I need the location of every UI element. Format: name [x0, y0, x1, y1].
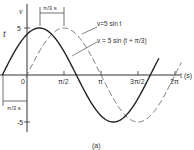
side-label-t: t [3, 28, 6, 39]
sine-phase-diagram: π/3 s π/3 s v t 5 -5 0 π/2 π 3π/2 2π t (… [0, 0, 194, 150]
y-tick-5: 5 [17, 25, 21, 32]
x-tick-2pi: 2π [170, 78, 179, 85]
leader-dashed [82, 27, 97, 34]
x-tick-pi: π [98, 78, 103, 85]
x-axis-label: t (s) [180, 72, 192, 80]
y-axis-label: v [19, 7, 23, 16]
x-tick-3pi-2: 3π/2 [130, 78, 145, 85]
label-pi-3-top: π/3 s [43, 5, 57, 11]
x-tick-0: 0 [21, 78, 25, 85]
y-tick-neg5: -5 [17, 119, 23, 126]
x-tick-pi-2: π/2 [58, 78, 69, 85]
label-curve-solid: v = 5 sin (t + π/3) [97, 37, 147, 45]
label-pi-3-bottom: π/3 s [7, 105, 21, 111]
label-curve-dashed: v=5 sin t [97, 20, 122, 27]
caption: (a) [92, 142, 101, 150]
